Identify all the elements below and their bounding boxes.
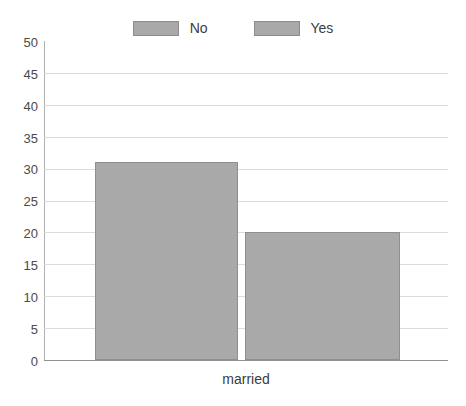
y-tick-label: 20 [4,227,38,240]
bar-yes[interactable] [245,232,400,360]
legend-item-no[interactable]: No [133,21,208,36]
gridline [44,137,448,138]
x-axis-line [44,360,448,361]
y-tick-label: 30 [4,163,38,176]
y-tick-label: 35 [4,132,38,145]
y-tick-label: 50 [4,36,38,49]
y-tick-label: 0 [4,355,38,368]
y-tick-label: 10 [4,291,38,304]
legend-swatch-icon [254,21,300,36]
gridline [44,105,448,106]
y-tick-label: 45 [4,68,38,81]
y-axis-ticks: 50 45 40 35 30 25 20 15 10 5 0 [0,0,38,406]
legend-label-no: No [190,21,208,35]
x-axis-label: married [44,372,448,386]
legend-item-yes[interactable]: Yes [254,21,334,36]
y-tick-label: 15 [4,259,38,272]
bar-no[interactable] [95,162,238,360]
legend-swatch-icon [133,21,179,36]
y-tick-label: 40 [4,100,38,113]
y-tick-label: 25 [4,195,38,208]
gridline [44,73,448,74]
legend-label-yes: Yes [311,21,334,35]
chart-legend: No Yes [0,16,466,40]
bar-chart: No Yes 50 45 40 35 30 25 20 15 10 5 0 [0,0,466,406]
plot-area [44,41,448,360]
y-tick-label: 5 [4,323,38,336]
